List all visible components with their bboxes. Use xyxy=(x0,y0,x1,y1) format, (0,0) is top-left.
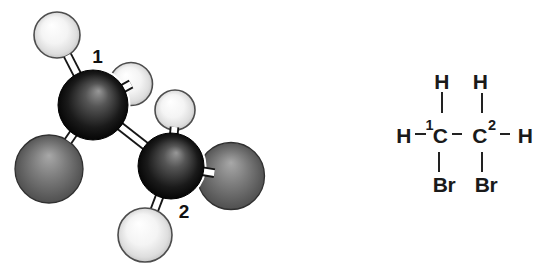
formula-top-left-h: H xyxy=(434,71,449,92)
formula-bond-c2-hright xyxy=(500,133,511,135)
formula-c2-superscript: 2 xyxy=(488,118,496,133)
formula-bond-c1-c2 xyxy=(452,133,463,135)
formula-bond-htop-c1 xyxy=(441,92,443,113)
formula-right-br: Br xyxy=(475,174,497,195)
formula-right-h: H xyxy=(518,125,533,146)
formula-bond-hleft-c1 xyxy=(415,133,426,135)
formula-left-h: H xyxy=(396,125,411,146)
formula-bond-c1-br xyxy=(438,152,440,172)
formula-carbon1: C xyxy=(433,125,448,146)
figure-dibromoethane: 1 2 H H H 1 C C 2 H Br Br xyxy=(0,0,535,275)
formula-bond-c2-br xyxy=(481,152,483,172)
formula-carbon2: C xyxy=(472,125,487,146)
formula-bond-htop-c2 xyxy=(481,93,483,113)
structural-formula: H H H 1 C C 2 H Br Br xyxy=(0,0,535,275)
formula-top-right-h: H xyxy=(473,71,488,92)
formula-left-br: Br xyxy=(433,174,455,195)
